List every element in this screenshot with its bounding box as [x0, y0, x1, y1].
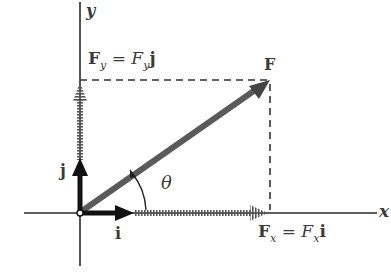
fy-equation: Fy = Fyj — [88, 50, 156, 67]
fy-lhs: F — [88, 48, 100, 68]
force-label: F — [264, 57, 275, 73]
fx-rhs-sub: x — [313, 232, 319, 245]
unit-i-label: i — [115, 226, 121, 242]
unit-vector-j-arrow — [72, 158, 88, 213]
fy-unit: j — [149, 48, 155, 68]
fy-rhs-sub: y — [143, 59, 149, 72]
fx-eq: = — [282, 221, 296, 241]
fx-lhs-sub: x — [270, 232, 276, 245]
fx-lhs: F — [258, 221, 270, 241]
force-vector-arrow — [82, 80, 270, 211]
fx-component-arrow — [135, 205, 268, 221]
vector-diagram: y x F Fy = Fyj Fx = Fxi j i θ — [0, 0, 391, 275]
theta-label: θ — [161, 174, 172, 192]
fx-unit: i — [319, 221, 325, 241]
diagram-graphics — [0, 0, 391, 275]
fx-rhs: F — [301, 221, 313, 241]
fy-rhs: F — [131, 48, 143, 68]
x-axis-label: x — [379, 203, 389, 220]
fy-component-arrow — [73, 82, 87, 160]
origin-point — [77, 210, 83, 216]
unit-j-label: j — [60, 163, 66, 179]
fy-eq: = — [112, 48, 126, 68]
fy-lhs-sub: y — [100, 59, 106, 72]
y-axis-label: y — [86, 3, 95, 19]
fx-equation: Fx = Fxi — [258, 223, 326, 240]
